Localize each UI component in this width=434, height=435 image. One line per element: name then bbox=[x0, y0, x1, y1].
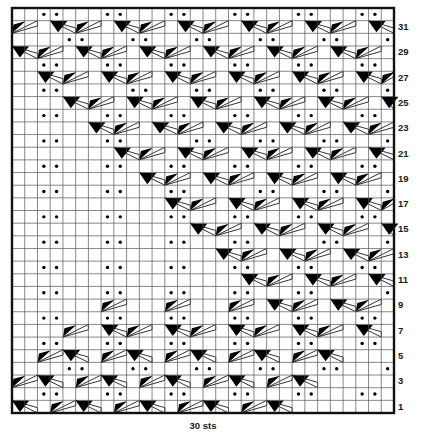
purl-dot-icon bbox=[55, 291, 58, 294]
purl-dot-icon bbox=[246, 316, 249, 319]
row-number-label: 9 bbox=[398, 300, 424, 310]
purl-dot-icon bbox=[373, 215, 376, 218]
purl-dot-icon bbox=[233, 342, 236, 345]
purl-dot-icon bbox=[360, 13, 363, 16]
purl-dot-icon bbox=[106, 190, 109, 193]
purl-dot-icon bbox=[310, 215, 313, 218]
purl-dot-icon bbox=[106, 215, 109, 218]
purl-dot-icon bbox=[169, 266, 172, 269]
purl-dot-icon bbox=[182, 13, 185, 16]
purl-dot-icon bbox=[106, 165, 109, 168]
purl-dot-icon bbox=[119, 63, 122, 66]
purl-dot-icon bbox=[310, 266, 313, 269]
purl-dot-icon bbox=[322, 139, 325, 142]
purl-dot-icon bbox=[42, 215, 45, 218]
purl-dot-icon bbox=[106, 114, 109, 117]
purl-dot-icon bbox=[119, 114, 122, 117]
purl-dot-icon bbox=[144, 367, 147, 370]
row-number-label: 15 bbox=[398, 224, 424, 234]
purl-dot-icon bbox=[386, 89, 389, 92]
purl-dot-icon bbox=[106, 291, 109, 294]
purl-dot-icon bbox=[386, 367, 389, 370]
purl-dot-icon bbox=[55, 215, 58, 218]
row-number-label: 29 bbox=[398, 47, 424, 57]
purl-dot-icon bbox=[246, 114, 249, 117]
purl-dot-icon bbox=[106, 139, 109, 142]
purl-dot-icon bbox=[335, 139, 338, 142]
purl-dot-icon bbox=[310, 165, 313, 168]
purl-dot-icon bbox=[297, 63, 300, 66]
purl-dot-icon bbox=[271, 139, 274, 142]
purl-dot-icon bbox=[42, 190, 45, 193]
purl-dot-icon bbox=[119, 266, 122, 269]
purl-dot-icon bbox=[335, 190, 338, 193]
purl-dot-icon bbox=[208, 139, 211, 142]
purl-dot-icon bbox=[259, 38, 262, 41]
row-number-label: 1 bbox=[398, 402, 424, 412]
purl-dot-icon bbox=[131, 38, 134, 41]
purl-dot-icon bbox=[297, 392, 300, 395]
purl-dot-icon bbox=[297, 316, 300, 319]
purl-dot-icon bbox=[182, 190, 185, 193]
purl-dot-icon bbox=[271, 190, 274, 193]
purl-dot-icon bbox=[297, 266, 300, 269]
purl-dot-icon bbox=[373, 63, 376, 66]
purl-dot-icon bbox=[119, 291, 122, 294]
purl-dot-icon bbox=[182, 240, 185, 243]
purl-dot-icon bbox=[310, 392, 313, 395]
purl-dot-icon bbox=[233, 240, 236, 243]
purl-dot-icon bbox=[335, 89, 338, 92]
purl-dot-icon bbox=[322, 89, 325, 92]
purl-dot-icon bbox=[386, 190, 389, 193]
purl-dot-icon bbox=[55, 240, 58, 243]
purl-dot-icon bbox=[106, 63, 109, 66]
stitch-count-caption: 30 sts bbox=[0, 420, 406, 431]
purl-dot-icon bbox=[297, 114, 300, 117]
purl-dot-icon bbox=[373, 114, 376, 117]
purl-dot-icon bbox=[360, 342, 363, 345]
purl-dot-icon bbox=[55, 63, 58, 66]
purl-dot-icon bbox=[360, 63, 363, 66]
purl-dot-icon bbox=[195, 367, 198, 370]
purl-dot-icon bbox=[297, 165, 300, 168]
purl-dot-icon bbox=[360, 215, 363, 218]
purl-dot-icon bbox=[335, 38, 338, 41]
purl-dot-icon bbox=[55, 266, 58, 269]
purl-dot-icon bbox=[360, 392, 363, 395]
purl-dot-icon bbox=[169, 190, 172, 193]
purl-dot-icon bbox=[169, 215, 172, 218]
purl-dot-icon bbox=[297, 13, 300, 16]
purl-dot-icon bbox=[297, 215, 300, 218]
purl-dot-icon bbox=[68, 367, 71, 370]
purl-dot-icon bbox=[119, 240, 122, 243]
purl-dot-icon bbox=[169, 316, 172, 319]
purl-dot-icon bbox=[42, 114, 45, 117]
knitting-chart: 312927252321191715131197531 30 sts bbox=[0, 0, 434, 435]
purl-dot-icon bbox=[386, 291, 389, 294]
purl-dot-icon bbox=[80, 367, 83, 370]
purl-dot-icon bbox=[310, 13, 313, 16]
purl-dot-icon bbox=[195, 38, 198, 41]
purl-dot-icon bbox=[246, 342, 249, 345]
purl-dot-icon bbox=[373, 342, 376, 345]
purl-dot-icon bbox=[310, 63, 313, 66]
purl-dot-icon bbox=[233, 316, 236, 319]
purl-dot-icon bbox=[55, 392, 58, 395]
row-number-label: 7 bbox=[398, 326, 424, 336]
purl-dot-icon bbox=[246, 291, 249, 294]
purl-dot-icon bbox=[233, 266, 236, 269]
purl-dot-icon bbox=[42, 63, 45, 66]
row-number-label: 11 bbox=[398, 275, 424, 285]
purl-dot-icon bbox=[233, 392, 236, 395]
purl-dot-icon bbox=[373, 13, 376, 16]
purl-dot-icon bbox=[106, 266, 109, 269]
purl-dot-icon bbox=[259, 139, 262, 142]
purl-dot-icon bbox=[322, 367, 325, 370]
purl-dot-icon bbox=[208, 367, 211, 370]
purl-dot-icon bbox=[55, 342, 58, 345]
purl-dot-icon bbox=[119, 342, 122, 345]
purl-dot-icon bbox=[182, 266, 185, 269]
purl-dot-icon bbox=[322, 240, 325, 243]
purl-dot-icon bbox=[42, 165, 45, 168]
purl-dot-icon bbox=[42, 266, 45, 269]
